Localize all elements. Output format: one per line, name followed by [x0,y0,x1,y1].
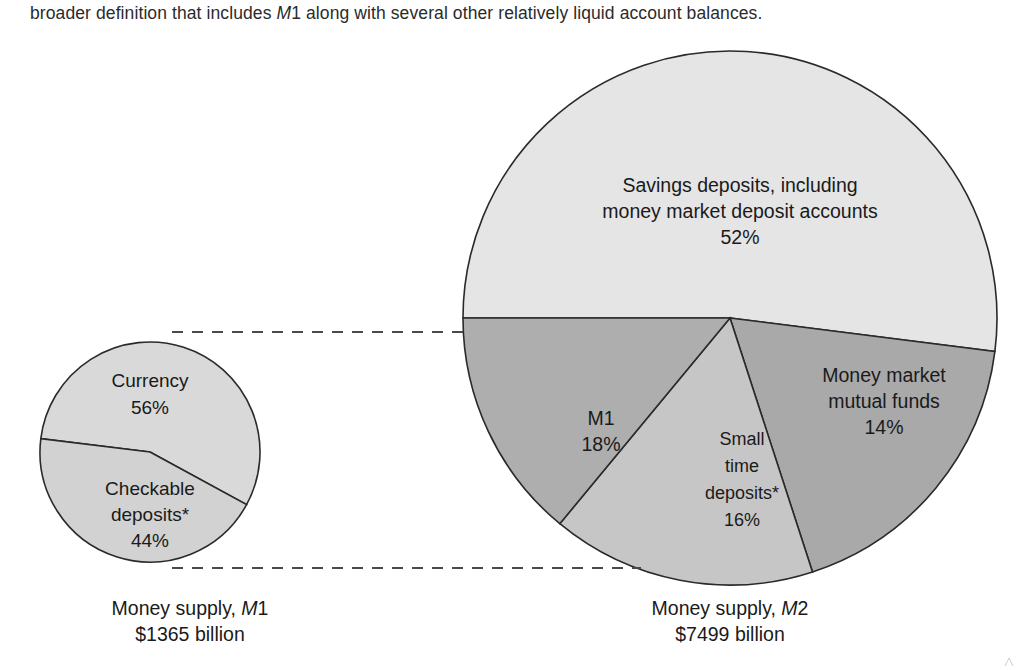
label-savings-line1: Savings deposits, including [622,174,857,196]
label-currency-percent: 56% [131,397,169,418]
label-savings-line2: money market deposit accounts [602,200,878,222]
label-mmmf-line2: mutual funds [828,390,940,412]
pie-chart-m1: Currency 56% Checkable deposits* 44% [40,342,260,562]
caption-m1-suffix: 1 [258,597,269,619]
caption-m2-line1: Money supply, M2 [580,595,880,621]
page-corner-mark-icon [1004,657,1014,667]
caption-m2-prefix: Money supply, [652,597,782,619]
label-savings-percent: 52% [720,226,759,248]
caption-m1-italic: M [241,597,257,619]
caption-m2-line2: $7499 billion [580,621,880,647]
caption-m2-italic: M [781,597,797,619]
label-small-time-line1: Small [719,429,764,449]
caption-money-supply-m2: Money supply, M2 $7499 billion [580,595,880,647]
caption-money-supply-m1: Money supply, M1 $1365 billion [40,595,340,647]
label-checkable-line1: Checkable [105,478,195,499]
label-small-time-percent: 16% [724,510,760,530]
pie-chart-m2: Savings deposits, including money market… [463,51,997,585]
label-mmmf-line1: Money market [822,364,946,386]
caption-m1-line1: Money supply, M1 [40,595,340,621]
caption-m1-prefix: Money supply, [112,597,242,619]
label-m1-percent: 18% [581,433,620,455]
label-checkable-line2: deposits* [111,504,190,525]
label-small-time-line3: deposits* [705,483,779,503]
label-mmmf-percent: 14% [864,416,903,438]
label-m1-name: M1 [587,407,614,429]
caption-m1-line2: $1365 billion [40,621,340,647]
label-small-time-line2: time [725,456,759,476]
label-currency-name: Currency [111,370,189,391]
caption-m2-suffix: 2 [798,597,809,619]
figure-root: broader definition that includes M1 alon… [0,0,1017,670]
label-checkable-percent: 44% [131,530,169,551]
pie-chart-canvas: Savings deposits, including money market… [0,0,1017,670]
